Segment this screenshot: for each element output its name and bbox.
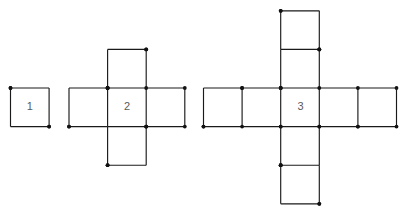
figures-group — [9, 9, 399, 206]
matchstick-head-dot — [317, 86, 321, 90]
matchstick-head-dot — [279, 163, 283, 167]
figure-3-label: 3 — [297, 100, 303, 112]
matchstick-head-dot — [240, 125, 244, 129]
matchstick-head-dot — [279, 9, 283, 13]
matchstick-head-dot — [317, 48, 321, 52]
matchstick-head-dot — [106, 86, 110, 90]
matchstick-head-dot — [144, 125, 148, 129]
matchstick-figure-canvas: 123 — [0, 0, 407, 218]
matchstick-head-dot — [9, 86, 13, 90]
matchstick-head-dot — [47, 125, 51, 129]
matchstick-head-dot — [356, 125, 360, 129]
matchstick-head-dot — [67, 125, 71, 129]
matchstick-head-dot — [183, 125, 187, 129]
figure-1-label: 1 — [27, 100, 33, 112]
matchstick-head-dot — [317, 202, 321, 206]
figure-labels-group: 123 — [27, 100, 304, 112]
matchstick-head-dot — [395, 125, 399, 129]
matchstick-head-dot — [317, 125, 321, 129]
matchstick-head-dot — [144, 48, 148, 52]
matchstick-head-dot — [106, 163, 110, 167]
matchstick-head-dot — [202, 125, 206, 129]
figure-2-label: 2 — [124, 100, 130, 112]
